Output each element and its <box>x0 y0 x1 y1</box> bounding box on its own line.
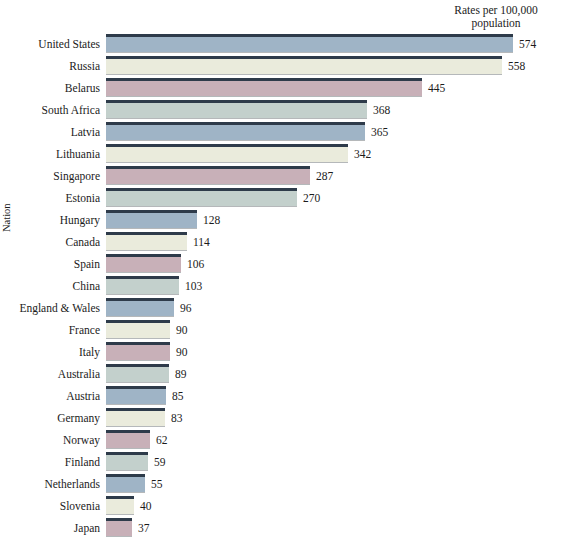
bar-value-label: 89 <box>175 363 187 385</box>
bar-category-label: Latvia <box>0 121 100 143</box>
bar-category-label: Singapore <box>0 165 100 187</box>
bar-value-label: 103 <box>185 275 202 297</box>
bar-row: Hungary128 <box>0 209 579 231</box>
bar-row: Lithuania342 <box>0 143 579 165</box>
bar-category-label: United States <box>0 33 100 55</box>
bar-category-label: Canada <box>0 231 100 253</box>
plot-area: United States574Russia558Belarus445South… <box>0 33 579 493</box>
bar-category-label: Russia <box>0 55 100 77</box>
chart-units-note-line1: Rates per 100,000 <box>421 4 571 17</box>
bar-value-label: 128 <box>203 209 220 231</box>
bar-value-label: 55 <box>151 473 163 495</box>
bar-category-label: Germany <box>0 407 100 429</box>
bar-row: Germany83 <box>0 407 579 429</box>
bar <box>106 34 513 52</box>
bar-value-label: 85 <box>172 385 184 407</box>
bar-category-label: Estonia <box>0 187 100 209</box>
bar-value-label: 62 <box>156 429 168 451</box>
bar <box>106 452 148 470</box>
bar <box>106 386 166 404</box>
bar-value-label: 342 <box>354 143 371 165</box>
bar-category-label: Lithuania <box>0 143 100 165</box>
bar-value-label: 59 <box>154 451 166 473</box>
bar-row: Slovenia40 <box>0 495 579 517</box>
bar-category-label: Belarus <box>0 77 100 99</box>
bar-row: China103 <box>0 275 579 297</box>
bar-row: Austria85 <box>0 385 579 407</box>
bar-row: Japan37 <box>0 517 579 539</box>
bar <box>106 474 145 492</box>
bar-row: Russia558 <box>0 55 579 77</box>
bar-row: Italy90 <box>0 341 579 363</box>
bar <box>106 320 170 338</box>
bar-value-label: 90 <box>176 341 188 363</box>
bar <box>106 188 297 206</box>
bar-row: Latvia365 <box>0 121 579 143</box>
bar-row: Norway62 <box>0 429 579 451</box>
bar-row: England & Wales96 <box>0 297 579 319</box>
bar-value-label: 114 <box>193 231 210 253</box>
bar-category-label: Finland <box>0 451 100 473</box>
bar <box>106 298 174 316</box>
bar-row: Australia89 <box>0 363 579 385</box>
bar-value-label: 445 <box>428 77 445 99</box>
bar-value-label: 90 <box>176 319 188 341</box>
bar <box>106 232 187 250</box>
bar-category-label: China <box>0 275 100 297</box>
bar-category-label: Austria <box>0 385 100 407</box>
bar <box>106 276 179 294</box>
bar-category-label: Hungary <box>0 209 100 231</box>
bar <box>106 210 197 228</box>
bar-value-label: 368 <box>373 99 390 121</box>
bar-row: France90 <box>0 319 579 341</box>
bar <box>106 56 502 74</box>
bar-row: Finland59 <box>0 451 579 473</box>
bar <box>106 166 310 184</box>
bar-value-label: 270 <box>303 187 320 209</box>
bar-category-label: South Africa <box>0 99 100 121</box>
bar-category-label: Japan <box>0 517 100 539</box>
bar-category-label: Netherlands <box>0 473 100 495</box>
bar <box>106 78 422 96</box>
bar-value-label: 574 <box>519 33 536 55</box>
bar <box>106 364 169 382</box>
bar-category-label: England & Wales <box>0 297 100 319</box>
bar-row: Singapore287 <box>0 165 579 187</box>
bar <box>106 122 365 140</box>
bar <box>106 430 150 448</box>
bar-row: Canada114 <box>0 231 579 253</box>
bar <box>106 408 165 426</box>
bar-value-label: 106 <box>187 253 204 275</box>
bar <box>106 254 181 272</box>
bar-category-label: Norway <box>0 429 100 451</box>
chart-units-note-line2: population <box>421 17 571 30</box>
bar-row: Belarus445 <box>0 77 579 99</box>
bar-category-label: France <box>0 319 100 341</box>
chart-units-note: Rates per 100,000 population <box>421 4 571 30</box>
bar <box>106 100 367 118</box>
bar-value-label: 37 <box>138 517 150 539</box>
bar-category-label: Spain <box>0 253 100 275</box>
bar-row: Spain106 <box>0 253 579 275</box>
bar-category-label: Italy <box>0 341 100 363</box>
bar <box>106 144 348 162</box>
bar-value-label: 96 <box>180 297 192 319</box>
bar-category-label: Slovenia <box>0 495 100 517</box>
bar-row: United States574 <box>0 33 579 55</box>
bar-value-label: 83 <box>171 407 183 429</box>
bar-value-label: 40 <box>140 495 152 517</box>
bar-row: Estonia270 <box>0 187 579 209</box>
bar <box>106 496 134 514</box>
bar-row: Netherlands55 <box>0 473 579 495</box>
bar-value-label: 558 <box>508 55 525 77</box>
bar-value-label: 287 <box>316 165 333 187</box>
bar <box>106 342 170 360</box>
bar-row: South Africa368 <box>0 99 579 121</box>
bar <box>106 518 132 536</box>
bar-category-label: Australia <box>0 363 100 385</box>
bar-value-label: 365 <box>371 121 388 143</box>
